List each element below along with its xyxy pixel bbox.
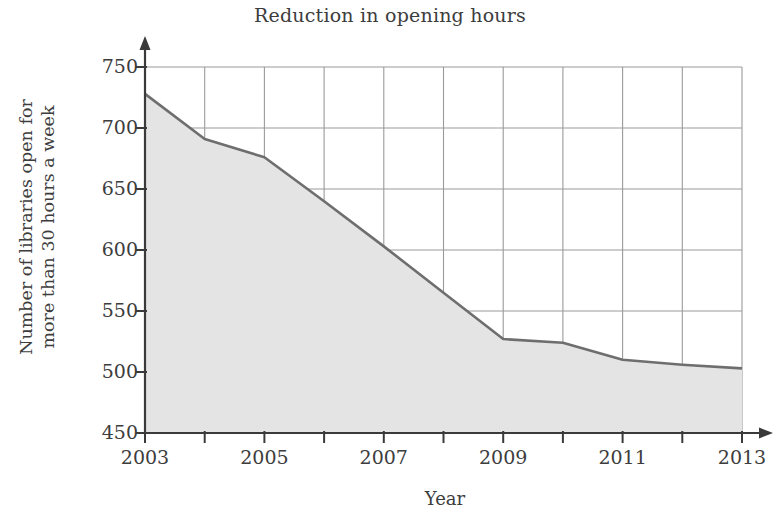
y-tick-label: 750 xyxy=(78,55,138,77)
x-tick-label: 2011 xyxy=(583,446,663,468)
y-tick-label: 600 xyxy=(78,238,138,260)
chart-plot-area xyxy=(0,0,780,523)
chart-figure: Reduction in opening hours Number of lib… xyxy=(0,0,780,523)
y-tick-label: 700 xyxy=(78,116,138,138)
y-tick-label: 650 xyxy=(78,177,138,199)
y-tick-label: 500 xyxy=(78,360,138,382)
x-tick-label: 2009 xyxy=(463,446,543,468)
x-axis-arrow xyxy=(759,428,773,439)
x-tick-label: 2007 xyxy=(344,446,424,468)
y-axis-arrow xyxy=(140,36,151,50)
x-tick-label: 2003 xyxy=(105,446,185,468)
x-tick-label: 2005 xyxy=(224,446,304,468)
y-tick-label: 450 xyxy=(78,421,138,443)
x-tick-label: 2013 xyxy=(702,446,780,468)
y-tick-label: 550 xyxy=(78,299,138,321)
